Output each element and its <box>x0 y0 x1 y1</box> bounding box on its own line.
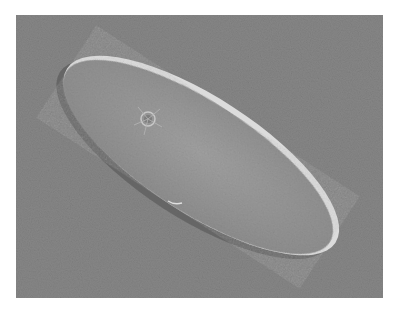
micrograph <box>16 15 383 298</box>
paramecium-illustration <box>16 15 383 298</box>
